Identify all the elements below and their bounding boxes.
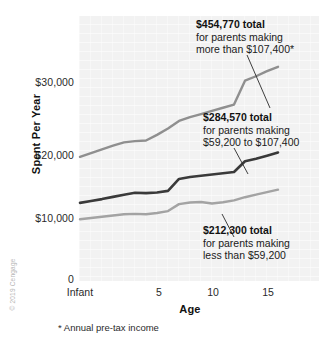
y-axis-title: Spent Per Year	[30, 74, 42, 194]
annotation-mid-income-line2: for parents making	[203, 124, 299, 137]
annotation-high-income-headline: $454,770 total	[196, 18, 294, 31]
annotation-high-income-line2: for parents making	[196, 31, 294, 44]
footnote: * Annual pre-tax income	[58, 322, 159, 333]
y-tick-0: 0	[68, 273, 74, 285]
annotation-mid-income: $284,570 total for parents making $59,20…	[203, 111, 299, 149]
annotation-low-income-line2: for parents making	[203, 237, 290, 250]
x-tick-5: 5	[144, 286, 174, 298]
annotation-high-income: $454,770 total for parents making more t…	[196, 18, 294, 56]
x-tick-infant: Infant	[55, 286, 105, 298]
annotation-low-income-line3: less than $59,200	[203, 249, 290, 262]
x-tick-15: 15	[253, 286, 283, 298]
chart-figure: $30,000 $20,000 $10,000 0 Infant 5 10 15…	[0, 0, 333, 340]
annotation-low-income-headline: $212,300 total	[203, 224, 290, 237]
copyright-credit: © 2019 Cengage	[9, 252, 16, 318]
annotation-mid-income-headline: $284,570 total	[203, 111, 299, 124]
y-tick-10000: $10,000	[35, 212, 74, 224]
x-tick-10: 10	[198, 286, 228, 298]
annotation-mid-income-line3: $59,200 to $107,400	[203, 136, 299, 149]
annotation-low-income: $212,300 total for parents making less t…	[203, 224, 290, 262]
x-axis-title: Age	[150, 303, 230, 315]
annotation-high-income-line3: more than $107,400*	[196, 43, 294, 56]
